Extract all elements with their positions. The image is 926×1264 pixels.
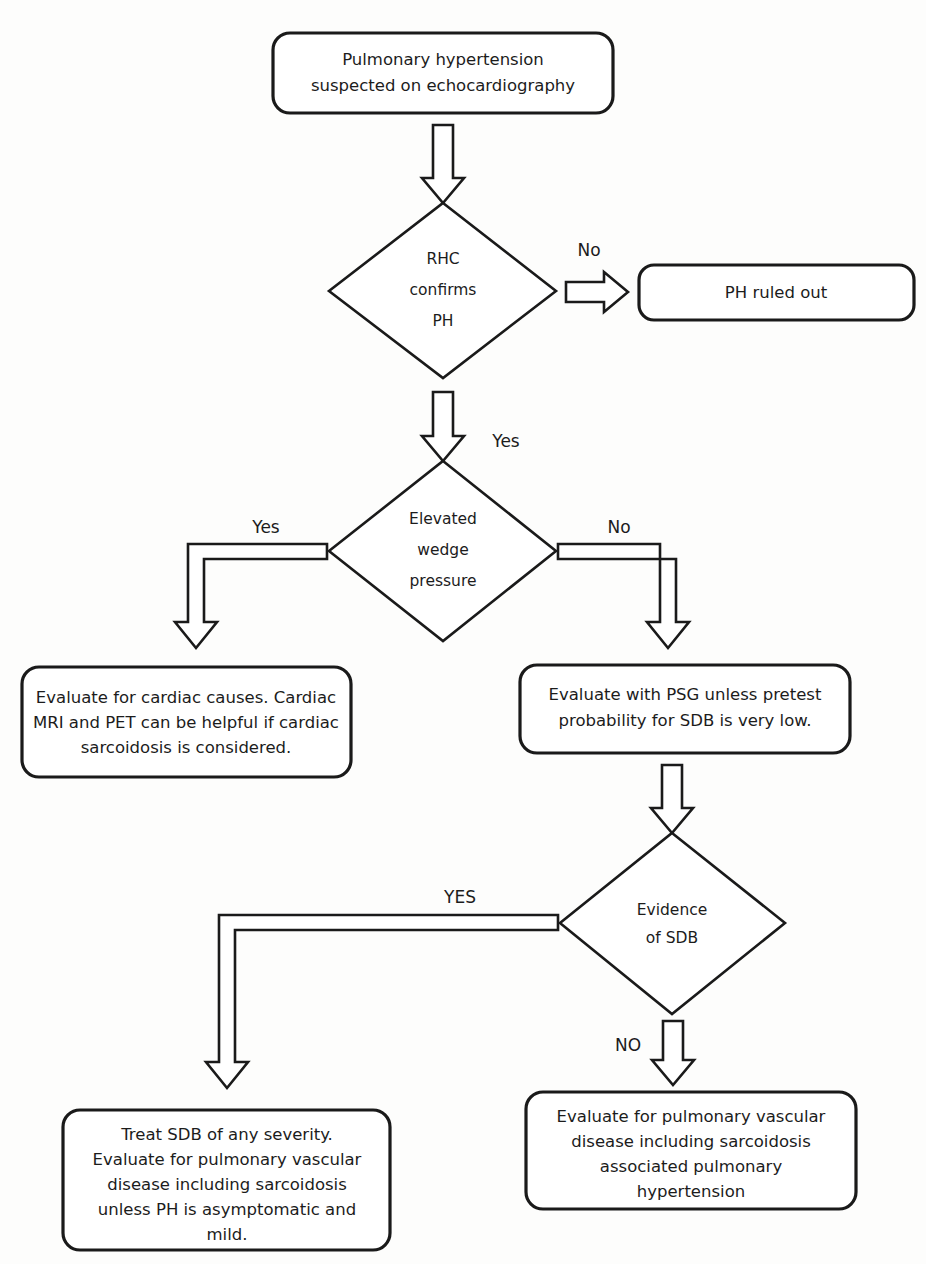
node-pvd-line-3: associated pulmonary xyxy=(600,1157,783,1176)
block-elbow-left-down-icon xyxy=(206,915,558,1088)
node-cardiac[interactable]: Evaluate for cardiac causes. Cardiac MRI… xyxy=(22,667,351,777)
node-ruled-out[interactable]: PH ruled out xyxy=(639,265,914,320)
node-rhc-line-2: confirms xyxy=(410,281,477,299)
edge-rhc-to-ruled-out: No xyxy=(566,240,628,312)
node-treat-sdb-line-1: Treat SDB of any severity. xyxy=(120,1125,333,1144)
edge-start-to-rhc xyxy=(422,125,464,203)
node-wedge-line-3: pressure xyxy=(410,572,477,590)
node-rhc-line-1: RHC xyxy=(426,250,459,268)
node-psg-shape xyxy=(520,665,850,753)
flowchart-svg: Pulmonary hypertension suspected on echo… xyxy=(0,0,926,1264)
node-rhc[interactable]: RHC confirms PH xyxy=(329,203,556,378)
node-start[interactable]: Pulmonary hypertension suspected on echo… xyxy=(273,33,613,113)
node-psg-line-1: Evaluate with PSG unless pretest xyxy=(549,685,822,704)
edge-label-rhc-yes: Yes xyxy=(491,431,520,451)
node-pvd-line-2: disease including sarcoidosis xyxy=(571,1132,811,1151)
node-treat-sdb-line-3: disease including sarcoidosis xyxy=(107,1175,347,1194)
node-sdb-line-2: of SDB xyxy=(646,929,698,947)
edge-label-rhc-no: No xyxy=(577,240,600,260)
flowchart-canvas: Pulmonary hypertension suspected on echo… xyxy=(0,0,926,1264)
edge-rhc-to-wedge: Yes xyxy=(422,392,520,461)
node-treat-sdb-line-2: Evaluate for pulmonary vascular xyxy=(93,1150,362,1169)
block-arrow-right-icon xyxy=(566,272,628,312)
edge-label-wedge-no: No xyxy=(607,517,630,537)
block-arrow-down-icon xyxy=(651,765,693,833)
node-rhc-line-3: PH xyxy=(432,312,453,330)
node-wedge-line-2: wedge xyxy=(417,541,468,559)
node-pvd-line-1: Evaluate for pulmonary vascular xyxy=(557,1107,826,1126)
node-psg-line-2: probability for SDB is very low. xyxy=(559,711,812,730)
node-cardiac-line-3: sarcoidosis is considered. xyxy=(81,738,292,757)
node-sdb-shape xyxy=(560,833,785,1014)
node-pvd[interactable]: Evaluate for pulmonary vascular disease … xyxy=(526,1092,856,1209)
edge-label-sdb-yes: YES xyxy=(443,887,476,907)
node-treat-sdb-line-4: unless PH is asymptomatic and xyxy=(98,1200,356,1219)
node-treat-sdb-line-5: mild. xyxy=(207,1225,248,1244)
edge-psg-to-sdb xyxy=(651,765,693,833)
node-pvd-line-4: hypertension xyxy=(637,1182,745,1201)
node-ruled-out-line-1: PH ruled out xyxy=(725,283,828,302)
block-arrow-down-icon xyxy=(422,125,464,203)
node-wedge-line-1: Elevated xyxy=(409,510,477,528)
node-start-line-2: suspected on echocardiography xyxy=(311,76,575,95)
node-treat-sdb[interactable]: Treat SDB of any severity. Evaluate for … xyxy=(63,1110,390,1250)
node-start-shape xyxy=(273,33,613,113)
edge-wedge-to-cardiac: Yes xyxy=(175,517,327,648)
edge-sdb-to-pvd: NO xyxy=(615,1021,694,1085)
node-start-line-1: Pulmonary hypertension xyxy=(342,50,544,69)
edge-wedge-to-psg: No xyxy=(558,517,689,648)
node-psg[interactable]: Evaluate with PSG unless pretest probabi… xyxy=(520,665,850,753)
node-wedge[interactable]: Elevated wedge pressure xyxy=(329,461,556,641)
node-cardiac-line-2: MRI and PET can be helpful if cardiac xyxy=(33,713,339,732)
block-elbow-right-down-icon xyxy=(558,544,689,648)
block-elbow-left-down-icon xyxy=(175,544,327,648)
edge-label-sdb-no: NO xyxy=(615,1035,641,1055)
edge-sdb-to-treat-sdb: YES xyxy=(206,887,558,1088)
node-sdb[interactable]: Evidence of SDB xyxy=(560,833,785,1014)
edge-label-wedge-yes: Yes xyxy=(251,517,280,537)
block-arrow-down-icon xyxy=(422,392,464,461)
node-sdb-line-1: Evidence xyxy=(637,901,708,919)
node-cardiac-line-1: Evaluate for cardiac causes. Cardiac xyxy=(36,688,336,707)
block-arrow-down-icon xyxy=(652,1021,694,1085)
